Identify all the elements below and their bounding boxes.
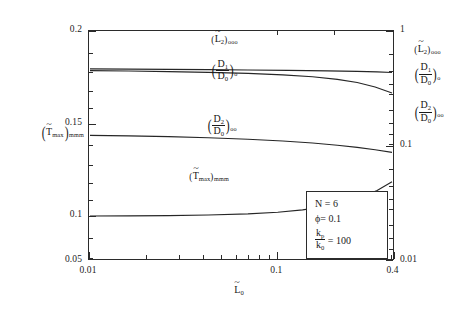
annotation-d2-den: D: [213, 125, 220, 136]
paren-close: ): [230, 66, 234, 76]
y-right-tick-minor: [389, 186, 393, 187]
y-left-ticklabel-0.2: 0.2: [38, 24, 82, 34]
x-tick-minor: [221, 255, 222, 259]
y-axis-left-title-outer-sub: mmm: [69, 131, 84, 138]
param-k-num-sub: p: [321, 232, 324, 239]
curve-d2-d0: [90, 135, 392, 152]
y-axis-left-title-base: T: [46, 127, 52, 137]
x-ticklabel-0.01: 0.01: [70, 265, 106, 275]
annotation-d2-outer: oo: [230, 125, 237, 132]
y-right-tick-minor: [389, 123, 393, 124]
right-legend: (L2)ooo ( D1 D0 )o ( D2 D0 )oo: [414, 44, 444, 132]
y-left-ticklabel-0.15: 0.15: [38, 117, 82, 127]
y-left-tick-minor: [89, 108, 93, 109]
y-left-tick-minor: [89, 91, 93, 92]
annotation-tmax-sub: max: [199, 175, 210, 182]
y-right-tick-minor: [389, 209, 393, 210]
x-tick-minor: [248, 255, 249, 259]
paren-close: ): [64, 128, 68, 138]
legend-item-d2-d0: ( D2 D0 )oo: [414, 100, 444, 125]
paren-close: ): [428, 45, 431, 54]
x-axis-title-base: L: [234, 285, 240, 295]
y-right-tick-minor: [389, 110, 393, 111]
y-left-tick-major-0.15: [89, 124, 96, 125]
y-axis-left-title: (Tmax)mmm: [18, 126, 84, 139]
paren-close: ): [225, 35, 228, 44]
y-right-ticklabel-1: 1: [400, 24, 440, 34]
legend-d2-outer: oo: [437, 111, 444, 118]
paren-close: ): [226, 121, 230, 131]
parameter-box: N = 6 ϕ= 0.1 kp k0 = 100: [306, 191, 388, 259]
annotation-l2-base: L: [215, 34, 221, 44]
y-right-tick-minor: [389, 134, 393, 135]
legend-d1-num: D: [420, 61, 427, 72]
x-tick-major-0.4: [394, 252, 395, 259]
annotation-d1-den-sub: 0: [225, 76, 228, 83]
x-ticklabel-0.4: 0.4: [375, 265, 411, 275]
annotation-d2-num: D: [213, 113, 220, 124]
x-tick-minor: [203, 255, 204, 259]
legend-l2-base: L: [418, 44, 424, 54]
legend-d1-outer: o: [437, 73, 440, 80]
y-right-tick-major-1: [386, 31, 393, 32]
y-right-tick-minor: [389, 169, 393, 170]
annotation-d2-d0: ( D2 D0 )oo: [207, 114, 237, 139]
legend-d2-den-sub: 0: [428, 117, 431, 124]
annotation-l2: (L2)ooo: [211, 33, 238, 46]
param-k-eq: =: [328, 235, 334, 246]
param-n-value: 6: [333, 198, 338, 209]
param-row-n: N = 6: [315, 197, 380, 212]
y-left-ticklabel-0.1: 0.1: [38, 209, 82, 219]
legend-item-l2: (L2)ooo: [414, 44, 444, 56]
y-left-tick-major-0.2: [89, 31, 96, 32]
legend-d1-den: D: [420, 74, 427, 85]
x-tick-major-0.01: [89, 252, 90, 259]
paren-close: ): [433, 108, 437, 118]
plot-area: (L2)ooo ( D1 D0 )o ( D2 D0 )oo (Tmax)mmm: [88, 30, 394, 260]
y-left-tick-minor: [89, 53, 93, 54]
x-tick-minor: [259, 255, 260, 259]
legend-d1-num-sub: 1: [428, 66, 431, 73]
param-phi-eq: =: [320, 213, 326, 224]
y-right-tick-minor: [389, 225, 393, 226]
curve-d1-d0: [90, 71, 392, 93]
param-row-k-ratio: kp k0 = 100: [315, 228, 380, 253]
x-tick-minor: [391, 255, 392, 259]
x-tick-major-0.1: [277, 252, 278, 259]
annotation-l2-outer: ooo: [228, 38, 238, 45]
x-top-tick-minor: [334, 31, 335, 35]
param-k-den-sub: 0: [321, 245, 324, 252]
annotation-d2-den-sub: 0: [221, 131, 224, 138]
param-phi-value: 0.1: [328, 213, 341, 224]
y-left-tick-minor: [89, 238, 93, 239]
x-tick-minor: [269, 255, 270, 259]
y-right-tick-minor: [389, 238, 393, 239]
annotation-d1-num: D: [217, 58, 224, 69]
paren-close: ): [211, 172, 214, 181]
y-right-ticklabel-0.01: 0.01: [400, 254, 440, 264]
legend-d2-num: D: [420, 99, 427, 110]
param-n-eq: =: [325, 198, 331, 209]
annotation-d2-num-sub: 2: [221, 118, 224, 125]
y-left-tick-major-0.1: [89, 216, 96, 217]
annotation-d1-outer: o: [234, 70, 237, 77]
y-right-tick-minor: [389, 144, 393, 145]
paren-open: (: [415, 70, 419, 80]
paren-close: ): [433, 70, 437, 80]
x-axis-title-sub: 0: [240, 289, 243, 296]
y-left-tick-minor: [89, 165, 93, 166]
param-n-symbol: N: [315, 198, 322, 209]
annotation-d1-num-sub: 1: [225, 63, 228, 70]
legend-l2-outer: ooo: [431, 48, 441, 55]
paren-open: (: [41, 128, 45, 138]
y-axis-left-title-sub: max: [52, 131, 63, 138]
annotation-d1-den: D: [217, 70, 224, 81]
legend-d2-den: D: [420, 112, 427, 123]
paren-open: (: [208, 121, 212, 131]
legend-item-d1-d0: ( D1 D0 )o: [414, 63, 444, 88]
figure-container: (Tmax)mmm: [0, 0, 471, 309]
x-ticklabel-0.1: 0.1: [258, 265, 294, 275]
annotation-tmax: (Tmax)mmm: [189, 170, 229, 183]
annotation-tmax-base: T: [193, 171, 199, 181]
param-row-phi: ϕ= 0.1: [315, 212, 380, 227]
